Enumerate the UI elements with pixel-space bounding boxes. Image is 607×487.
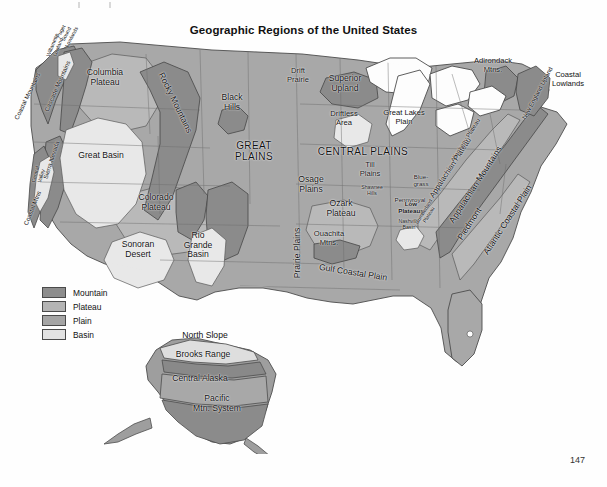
- legend-label-plateau: Plateau: [73, 302, 101, 312]
- map-graphic: [0, 14, 607, 454]
- legend-item-plateau: Plateau: [42, 300, 107, 313]
- scan-artifact: [109, 2, 111, 8]
- legend-item-mountain: Mountain: [42, 286, 107, 299]
- legend-label-plain: Plain: [73, 316, 92, 326]
- scan-artifact: [78, 2, 80, 8]
- legend-swatch-plateau: [42, 301, 66, 312]
- legend-label-basin: Basin: [73, 330, 94, 340]
- textbook-page: Geographic Regions of the United States: [0, 0, 607, 487]
- legend-swatch-mountain: [42, 287, 66, 298]
- page-number: 147: [570, 455, 585, 465]
- legend-item-basin: Basin: [42, 328, 107, 341]
- legend-swatch-plain: [42, 315, 66, 326]
- legend-item-plain: Plain: [42, 314, 107, 327]
- legend-swatch-basin: [42, 329, 66, 340]
- legend-label-mountain: Mountain: [73, 288, 107, 298]
- map-legend: MountainPlateauPlainBasin: [42, 286, 107, 342]
